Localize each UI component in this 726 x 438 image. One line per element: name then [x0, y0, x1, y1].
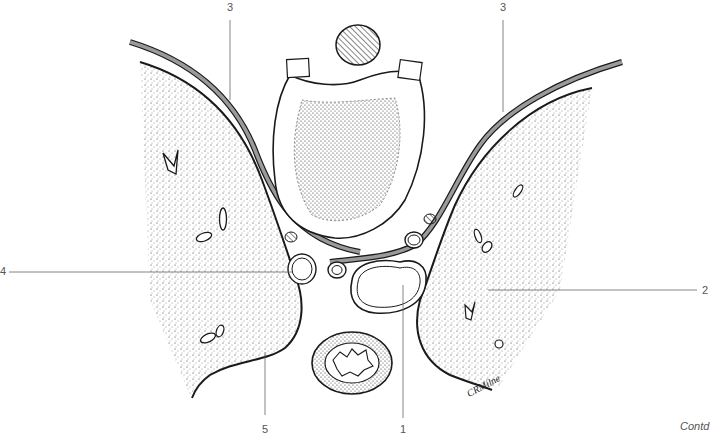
small-hatched-vessel-right: [424, 214, 436, 224]
hatched-circle: [336, 25, 380, 65]
label-3-right: 3: [500, 2, 506, 13]
label-2: 2: [702, 285, 708, 296]
label-1: 1: [400, 424, 406, 435]
large-oval-structure: [351, 261, 426, 314]
cross-section-diagram: [0, 0, 726, 438]
small-hatched-vessel-left: [285, 232, 297, 242]
label-5: 5: [262, 424, 268, 435]
label-3-left: 3: [227, 2, 233, 13]
left-tab: [287, 58, 310, 77]
label-4: 4: [0, 266, 6, 277]
right-tab: [398, 60, 422, 81]
continued-note: Contd: [680, 420, 709, 432]
